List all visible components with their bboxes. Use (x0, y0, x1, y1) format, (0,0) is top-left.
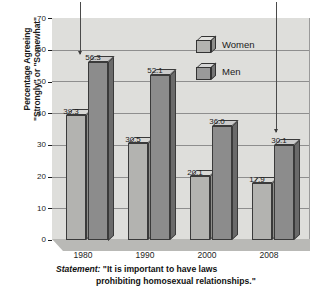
value-label-women-2008: 17.9 (243, 175, 271, 184)
cube-side (211, 35, 216, 53)
bar-men-2000 (212, 126, 232, 240)
value-label-men-2008: 30.1 (265, 136, 293, 145)
bar-women-1980 (66, 115, 86, 240)
statement-caption: Statement: "It is important to have laws… (56, 264, 325, 287)
bar-front (274, 145, 294, 240)
annotation-arrow-2008 (276, 2, 277, 132)
bar-front (252, 183, 272, 240)
bar-chart-figure: Percentage Agreeing "Strongly" or "Somew… (0, 0, 325, 291)
value-label-men-1980: 56.3 (79, 53, 107, 62)
cube-front (196, 40, 211, 53)
legend-item-women: Women (196, 36, 255, 53)
bar-front (128, 143, 148, 240)
bar-side (294, 139, 300, 240)
y-tick-label-70: 70 (26, 14, 46, 23)
value-label-women-1990: 30.5 (119, 135, 147, 144)
y-tick-label-0: 0 (26, 235, 46, 244)
statement-line-1: "It is important to have laws (103, 264, 217, 274)
statement-line-2: prohibiting homosexual relationships." (56, 276, 325, 288)
y-tick-label-10: 10 (26, 204, 46, 213)
bar-men-1980 (88, 62, 108, 241)
y-tick-label-50: 50 (26, 77, 46, 86)
value-label-men-2000: 36.0 (203, 117, 231, 126)
bar-side (232, 120, 238, 240)
plot-right-border (309, 18, 310, 240)
bar-front (88, 62, 108, 241)
legend-label-women: Women (222, 39, 255, 50)
bar-women-2008 (252, 183, 272, 240)
bar-side (170, 69, 176, 240)
bar-men-1990 (150, 75, 170, 240)
statement-label: Statement: (56, 264, 100, 274)
legend-swatch-men-icon (196, 63, 215, 80)
annotation-arrow-1980 (80, 2, 81, 54)
bar-side (108, 56, 114, 240)
plot-area (52, 18, 310, 240)
gridline-60 (52, 50, 310, 51)
legend-swatch-women-icon (196, 36, 215, 53)
bar-front (150, 75, 170, 240)
bar-women-2000 (190, 176, 210, 240)
cube-side (211, 62, 216, 80)
cube-front (196, 67, 211, 80)
y-tick-label-60: 60 (26, 45, 46, 54)
legend-item-men: Men (196, 63, 240, 80)
x-tick-label-1990: 1990 (125, 250, 165, 260)
value-label-men-1990: 52.1 (141, 66, 169, 75)
bar-front (66, 115, 86, 240)
y-tick-label-20: 20 (26, 172, 46, 181)
bar-men-2008 (274, 145, 294, 240)
y-tick-mark-0 (48, 240, 52, 241)
bar-front (190, 176, 210, 240)
y-tick-label-40: 40 (26, 109, 46, 118)
value-label-women-2000: 20.1 (181, 168, 209, 177)
x-tick-label-2008: 2008 (249, 250, 289, 260)
x-tick-label-2000: 2000 (187, 250, 227, 260)
bar-front (212, 126, 232, 240)
y-tick-label-30: 30 (26, 140, 46, 149)
legend-label-men: Men (222, 66, 240, 77)
x-tick-label-1980: 1980 (63, 250, 103, 260)
bar-women-1990 (128, 143, 148, 240)
y-axis-title-line-2: "Strongly" or "Somewhat" (33, 17, 43, 121)
value-label-women-1980: 39.3 (57, 107, 85, 116)
